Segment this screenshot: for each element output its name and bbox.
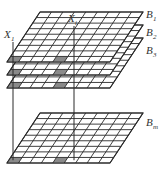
- layer-label-sub-Bm: m: [153, 123, 158, 131]
- grid-layer-Bm: [7, 113, 143, 163]
- layer-label-sub-B1: 1: [153, 15, 157, 23]
- layer-label-B3: B: [146, 44, 153, 56]
- layer-label-sub-B3: 3: [152, 51, 157, 59]
- diagram-canvas: BmB3B2B1X1Xi: [0, 0, 162, 175]
- layer-label-B2: B: [146, 26, 153, 38]
- pixel-label-sub-Xi: i: [75, 19, 77, 27]
- stacked-grid-diagram: BmB3B2B1X1Xi: [0, 0, 162, 175]
- pixel-label-sub-X1: 1: [11, 35, 15, 43]
- layer-label-B1: B: [146, 8, 153, 20]
- layer-label-Bm: B: [146, 116, 153, 128]
- layer-label-sub-B2: 2: [153, 33, 157, 41]
